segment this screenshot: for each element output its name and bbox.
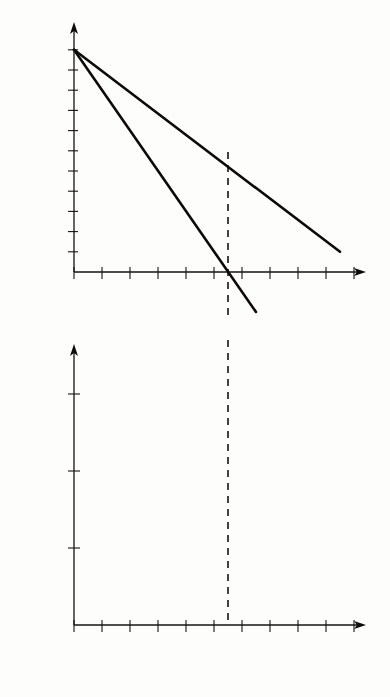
chart-top-price-marginal-revenue	[0, 0, 390, 340]
demand-curve-D	[74, 50, 340, 252]
bottom-y-axis	[70, 344, 78, 625]
chart-bottom-total-revenue	[0, 340, 390, 697]
bottom-x-ticks	[74, 620, 354, 632]
scanned-page	[0, 0, 390, 697]
top-x-axis	[74, 268, 366, 276]
top-x-ticks	[74, 267, 354, 279]
top-y-axis	[70, 22, 78, 272]
bottom-x-axis	[74, 621, 366, 629]
top-y-ticks	[68, 50, 78, 252]
